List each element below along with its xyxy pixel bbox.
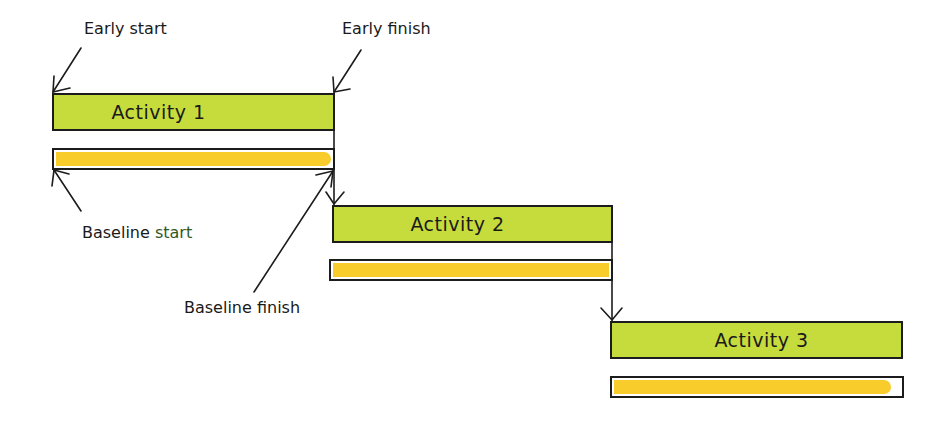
activity-1-label: Activity 1 — [111, 101, 205, 123]
activity-2-label: Activity 2 — [410, 213, 504, 235]
activity-3-baseline-bar — [610, 376, 904, 398]
baseline-finish-label: Baseline finish — [184, 298, 300, 317]
activity-3-baseline-fill — [614, 380, 891, 394]
activity-3-bar: Activity 3 — [610, 321, 903, 359]
activity-3-label: Activity 3 — [714, 329, 808, 351]
baseline-start-arrow-icon — [52, 170, 81, 211]
baseline-start-label: Baseline start — [82, 223, 192, 242]
activity-2-bar: Activity 2 — [332, 205, 613, 243]
early-start-label: Early start — [84, 19, 167, 38]
activity-2-baseline-fill — [333, 263, 609, 277]
activity-1-bar: Activity 1 — [52, 93, 335, 131]
early-finish-arrow-icon — [333, 50, 361, 92]
gantt-diagram: Early start Early finish Baseline start … — [0, 0, 948, 422]
baseline-start-label-suffix: start — [155, 223, 192, 242]
activity-1-baseline-bar — [52, 148, 335, 170]
activity-1-baseline-fill — [56, 152, 331, 166]
early-start-arrow-icon — [53, 48, 81, 92]
baseline-finish-arrow-icon — [254, 171, 333, 292]
dependency-arrow-2-to-3-icon — [601, 243, 622, 320]
early-finish-label: Early finish — [342, 19, 431, 38]
activity-2-baseline-bar — [329, 259, 613, 281]
baseline-start-label-prefix: Baseline — [82, 223, 150, 242]
